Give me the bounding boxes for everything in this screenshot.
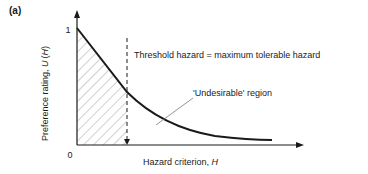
hazard-preference-diagram: (a) 1 0 Threshold hazard = maximum toler… [0,0,368,174]
origin-label: 0 [67,150,72,160]
y-axis-arrow-icon [74,10,80,18]
undesirable-region-label: 'Undesirable' region [193,88,272,98]
threshold-annotation: Threshold hazard = maximum tolerable haz… [134,50,320,60]
x-axis-arrow-icon [296,142,304,148]
panel-label: (a) [9,5,21,16]
y-tick-1: 1 [65,25,70,35]
y-axis-label: Preference rating, U(H) [40,46,50,141]
x-axis-label: Hazard criterion, H [143,157,219,167]
undesirable-leader-line [156,98,193,125]
